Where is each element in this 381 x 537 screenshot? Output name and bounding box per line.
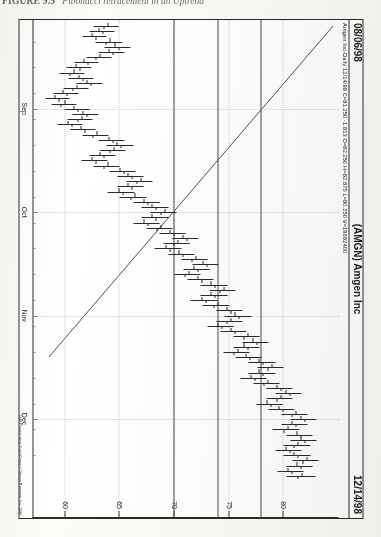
close-tick bbox=[122, 191, 123, 194]
ohlc-bar bbox=[190, 300, 216, 301]
date-minor-tick bbox=[32, 67, 35, 68]
open-tick bbox=[113, 146, 114, 149]
open-tick bbox=[197, 276, 198, 279]
close-tick bbox=[106, 41, 107, 44]
open-tick bbox=[252, 338, 253, 341]
ohlc-bar bbox=[68, 77, 93, 78]
open-tick bbox=[178, 250, 179, 253]
close-tick bbox=[238, 315, 239, 318]
ohlc-bar bbox=[275, 393, 301, 394]
ohlc-bar bbox=[266, 398, 292, 399]
ohlc-bar bbox=[283, 444, 309, 445]
date-gridline bbox=[32, 315, 338, 316]
ohlc-bar bbox=[242, 341, 268, 342]
close-tick bbox=[263, 382, 264, 385]
open-tick bbox=[287, 467, 288, 470]
ohlc-bar bbox=[286, 434, 312, 435]
ohlc-bar bbox=[248, 362, 274, 363]
close-tick bbox=[77, 119, 78, 122]
ohlc-bar bbox=[286, 476, 315, 477]
close-tick bbox=[230, 310, 231, 313]
ohlc-bar bbox=[268, 408, 294, 409]
close-tick bbox=[201, 279, 202, 282]
ohlc-bar bbox=[133, 222, 159, 223]
date-minor-tick bbox=[32, 222, 35, 223]
open-tick bbox=[293, 452, 294, 455]
open-tick bbox=[118, 188, 119, 191]
open-tick bbox=[210, 291, 211, 294]
close-tick bbox=[295, 424, 296, 427]
open-tick bbox=[243, 343, 244, 346]
open-tick bbox=[237, 348, 238, 351]
ohlc-bar bbox=[220, 331, 246, 332]
ohlc-bar bbox=[216, 320, 242, 321]
close-tick bbox=[270, 403, 271, 406]
price-gridline bbox=[282, 20, 283, 518]
ohlc-bar bbox=[168, 253, 194, 254]
open-tick bbox=[164, 209, 165, 212]
ohlc-bar bbox=[109, 170, 135, 171]
ohlc-bar bbox=[141, 217, 167, 218]
ohlc-bar bbox=[224, 315, 250, 316]
ohlc-bar bbox=[240, 377, 266, 378]
open-tick bbox=[223, 286, 224, 289]
quote-line: Amgen Inc-Daily 12/14/98 C=81.250 -1.813… bbox=[341, 23, 347, 253]
ohlc-bar bbox=[98, 51, 124, 52]
close-tick bbox=[82, 77, 83, 80]
open-tick bbox=[64, 100, 65, 103]
ohlc-bar bbox=[200, 284, 226, 285]
close-tick bbox=[160, 212, 161, 215]
ohlc-bar bbox=[89, 155, 115, 156]
close-tick bbox=[79, 67, 80, 70]
open-tick bbox=[80, 126, 81, 129]
ohlc-bar bbox=[286, 465, 312, 466]
ohlc-bar bbox=[98, 139, 124, 140]
close-tick bbox=[92, 134, 93, 137]
ohlc-bar bbox=[154, 248, 180, 249]
close-tick bbox=[280, 388, 281, 391]
close-tick bbox=[95, 160, 96, 163]
open-tick bbox=[287, 426, 288, 429]
open-tick bbox=[230, 327, 231, 330]
ohlc-bar bbox=[233, 346, 259, 347]
ohlc-bar bbox=[93, 165, 119, 166]
open-tick bbox=[54, 95, 55, 98]
close-tick bbox=[90, 82, 91, 85]
open-tick bbox=[169, 229, 170, 232]
date-minor-tick bbox=[32, 403, 35, 404]
ohlc-bar bbox=[281, 424, 307, 425]
open-tick bbox=[127, 172, 128, 175]
open-tick bbox=[301, 472, 302, 475]
open-tick bbox=[247, 333, 248, 336]
date-minor-tick bbox=[32, 300, 35, 301]
open-tick bbox=[140, 177, 141, 180]
close-tick bbox=[219, 289, 220, 292]
date-minor-tick bbox=[32, 196, 35, 197]
open-tick bbox=[119, 167, 120, 170]
open-tick bbox=[295, 410, 296, 413]
ohlc-bar bbox=[106, 144, 132, 145]
close-tick bbox=[302, 460, 303, 463]
open-tick bbox=[99, 152, 100, 155]
open-tick bbox=[230, 317, 231, 320]
close-tick bbox=[169, 248, 170, 251]
close-tick bbox=[243, 336, 244, 339]
open-tick bbox=[210, 281, 211, 284]
close-tick bbox=[147, 201, 148, 204]
price-axis bbox=[32, 517, 338, 518]
plot-area[interactable]: 8075706560SepOctNovDec bbox=[32, 20, 338, 518]
open-tick bbox=[116, 141, 117, 144]
open-tick bbox=[107, 22, 108, 25]
open-tick bbox=[110, 38, 111, 41]
ohlc-bar bbox=[117, 186, 143, 187]
open-tick bbox=[271, 364, 272, 367]
open-tick bbox=[91, 157, 92, 160]
ohlc-bar bbox=[203, 305, 229, 306]
open-tick bbox=[91, 33, 92, 36]
open-tick bbox=[193, 265, 194, 268]
open-tick bbox=[99, 53, 100, 56]
close-tick bbox=[131, 176, 132, 179]
close-tick bbox=[71, 124, 72, 127]
open-tick bbox=[280, 395, 281, 398]
close-tick bbox=[66, 93, 67, 96]
